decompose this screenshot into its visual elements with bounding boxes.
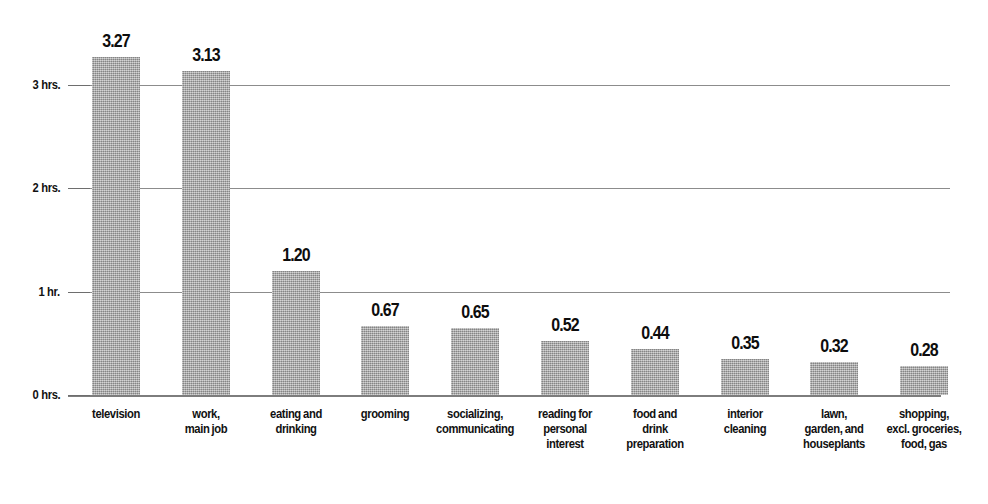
y-axis-label: 2 hrs. [32,180,60,195]
category-label-line: interest [516,437,615,452]
x-axis-baseline [68,395,941,397]
x-axis-category-label: reading forpersonalinterest [516,407,615,452]
category-label-line: eating and [246,407,345,422]
bar [721,359,769,395]
x-axis-category-label: grooming [336,407,435,422]
category-label-line: food and [605,407,704,422]
category-label-line: houseplants [785,437,884,452]
category-label-line: cleaning [695,422,794,437]
bar [182,71,230,395]
bar-value-label: 0.67 [348,300,424,319]
category-label-line: interior [695,407,794,422]
category-label-line: excl. groceries, [875,422,974,437]
bar-value-label: 0.52 [527,315,603,334]
category-label-line: communicating [426,422,525,437]
x-axis-category-label: socializing,communicating [426,407,525,437]
category-label-line: television [67,407,166,422]
bar [900,366,948,395]
category-label-line: drink [605,422,704,437]
category-label-line: socializing, [426,407,525,422]
bar [361,326,409,395]
x-axis-category-label: food anddrinkpreparation [605,407,704,452]
bar [810,362,858,395]
category-label-line: drinking [246,422,345,437]
bar-chart: 0 hrs.1 hr.2 hrs.3 hrs.3.27television3.1… [0,0,988,504]
x-axis-category-label: lawn,garden, andhouseplants [785,407,884,452]
y-axis-tick-mark [68,292,90,293]
category-label-line: personal [516,422,615,437]
plot-area: 0 hrs.1 hr.2 hrs.3 hrs.3.27television3.1… [0,0,988,504]
bar-value-label: 3.13 [168,45,244,64]
bar-value-label: 0.35 [707,333,783,352]
y-axis-label: 1 hr. [39,284,60,299]
y-axis-label: 3 hrs. [32,77,60,92]
category-label-line: work, [156,407,255,422]
bar-value-label: 3.27 [78,31,154,50]
bar-value-label: 0.44 [617,323,693,342]
category-label-line: lawn, [785,407,884,422]
y-axis-tick-mark [68,85,90,86]
x-axis-category-label: shopping,excl. groceries,food, gas [875,407,974,452]
bar-value-label: 0.65 [437,302,513,321]
bar [631,349,679,395]
category-label-line: main job [156,422,255,437]
bar-value-label: 0.32 [797,336,873,355]
bar [451,328,499,395]
category-label-line: food, gas [875,437,974,452]
bar [92,57,140,395]
bar [541,341,589,395]
bar [272,271,320,395]
category-label-line: grooming [336,407,435,422]
x-axis-category-label: eating anddrinking [246,407,345,437]
category-label-line: shopping, [875,407,974,422]
x-axis-category-label: work,main job [156,407,255,437]
y-axis-tick-mark [68,188,90,189]
bar-value-label: 0.28 [886,340,962,359]
category-label-line: preparation [605,437,704,452]
x-axis-category-label: television [67,407,166,422]
bar-value-label: 1.20 [258,245,334,264]
category-label-line: garden, and [785,422,884,437]
y-axis-label: 0 hrs. [32,387,60,402]
category-label-line: reading for [516,407,615,422]
x-axis-category-label: interiorcleaning [695,407,794,437]
y-axis-tick-mark [68,395,90,396]
